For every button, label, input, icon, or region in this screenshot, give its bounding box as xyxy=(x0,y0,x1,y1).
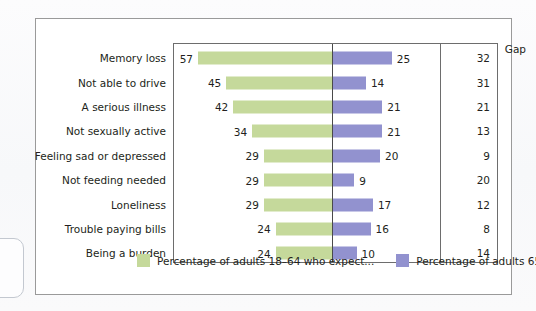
bar-value-expect: 24 xyxy=(257,223,270,235)
gap-value: 20 xyxy=(440,174,490,186)
bar-experience: 16 xyxy=(333,222,371,235)
gap-value: 31 xyxy=(440,77,490,89)
bar-value-experience: 21 xyxy=(387,101,400,113)
bar-value-expect: 29 xyxy=(245,150,258,162)
table-row: Not sexually active342113 xyxy=(174,119,497,143)
table-row: Loneliness291712 xyxy=(174,192,497,216)
gap-value: 32 xyxy=(440,52,490,64)
bar-value-experience: 20 xyxy=(385,150,398,162)
bar-experience: 25 xyxy=(333,52,392,65)
legend-swatch-green-icon xyxy=(137,254,150,267)
bar-value-experience: 25 xyxy=(397,52,410,64)
table-row: Not able to drive451431 xyxy=(174,70,497,94)
bar-expect: 29 xyxy=(264,198,332,211)
bar-experience: 14 xyxy=(333,76,366,89)
bar-expect: 42 xyxy=(233,100,332,113)
legend-item-experience: Percentage of adults 65+ who experience.… xyxy=(396,254,536,267)
bar-expect: 29 xyxy=(264,174,332,187)
gap-value: 12 xyxy=(440,199,490,211)
table-row: Feeling sad or depressed29209 xyxy=(174,144,497,168)
bar-value-experience: 9 xyxy=(359,174,366,186)
legend-swatch-purple-icon xyxy=(396,254,409,267)
category-label: A serious illness xyxy=(82,101,166,113)
category-label: Not able to drive xyxy=(78,77,166,89)
bar-expect: 34 xyxy=(252,125,332,138)
gap-value: 21 xyxy=(440,101,490,113)
bar-expect: 24 xyxy=(276,222,332,235)
category-label: Memory loss xyxy=(100,52,166,64)
table-row: Not feeding needed29920 xyxy=(174,168,497,192)
category-label: Not sexually active xyxy=(66,125,166,137)
bar-value-experience: 21 xyxy=(387,125,400,137)
bar-expect: 45 xyxy=(226,76,332,89)
bar-value-expect: 42 xyxy=(215,101,228,113)
bar-value-expect: 57 xyxy=(180,52,193,64)
bar-value-experience: 17 xyxy=(378,199,391,211)
chart-legend: Percentage of adults 18–64 who expect...… xyxy=(137,254,536,267)
bar-expect: 29 xyxy=(264,149,332,162)
table-row: Trouble paying bills24168 xyxy=(174,217,497,241)
bar-value-experience: 14 xyxy=(371,77,384,89)
category-label: Feeling sad or depressed xyxy=(35,150,166,162)
table-row: A serious illness422121 xyxy=(174,95,497,119)
legend-label-experience: Percentage of adults 65+ who experience.… xyxy=(416,255,536,267)
bar-experience: 20 xyxy=(333,149,380,162)
bar-value-expect: 45 xyxy=(208,77,221,89)
gap-value: 9 xyxy=(440,150,490,162)
callout-bubble-stub xyxy=(0,238,24,298)
bar-rows: Memory loss572532Not able to drive451431… xyxy=(174,44,497,262)
bar-experience: 17 xyxy=(333,198,373,211)
gap-value: 8 xyxy=(440,223,490,235)
category-label: Loneliness xyxy=(111,199,166,211)
legend-item-expect: Percentage of adults 18–64 who expect... xyxy=(137,254,374,267)
category-label: Trouble paying bills xyxy=(65,223,166,235)
legend-label-expect: Percentage of adults 18–64 who expect... xyxy=(157,255,374,267)
category-label: Not feeding needed xyxy=(62,174,166,186)
bar-experience: 21 xyxy=(333,125,382,138)
plot-area: Memory loss572532Not able to drive451431… xyxy=(173,43,498,263)
bar-value-expect: 34 xyxy=(234,125,247,137)
bar-experience: 21 xyxy=(333,100,382,113)
table-row: Memory loss572532 xyxy=(174,46,497,70)
bar-value-experience: 16 xyxy=(376,223,389,235)
gap-value: 13 xyxy=(440,125,490,137)
bar-expect: 57 xyxy=(198,52,332,65)
bar-experience: 9 xyxy=(333,174,354,187)
bar-value-expect: 29 xyxy=(245,199,258,211)
bar-value-expect: 29 xyxy=(245,174,258,186)
